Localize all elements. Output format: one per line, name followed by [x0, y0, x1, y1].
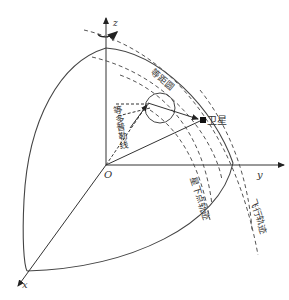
flight-track-line — [84, 30, 258, 255]
satellite-label: 卫星 — [207, 115, 227, 126]
dashed-tracks — [84, 30, 258, 255]
subsatellite-track-label: 星下点轨迹 — [188, 175, 212, 221]
y-axis-label: y — [256, 169, 263, 180]
x-axis — [18, 165, 106, 286]
axes — [18, 18, 284, 286]
x-axis-label: x — [22, 279, 28, 290]
origin-label: O — [104, 169, 112, 180]
iso-doppler-line-label: 等多普勒线 — [112, 103, 130, 150]
satellite-icon — [200, 117, 206, 123]
sar-geometry-diagram: z y x O 卫星 等距圆 等多普勒线 星下点轨迹 飞行轨迹 — [0, 0, 289, 300]
z-axis-label: z — [112, 18, 118, 28]
flight-track-label: 飞行轨迹 — [248, 197, 270, 235]
